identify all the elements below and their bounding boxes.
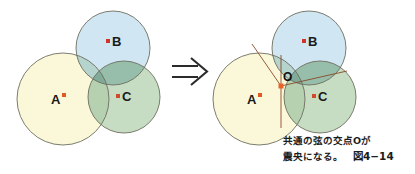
epicenter-dot-o — [279, 84, 284, 89]
left-label-c: C — [122, 89, 132, 104]
figure-container: A B C — [0, 0, 415, 174]
left-station-dot-c — [116, 94, 120, 98]
right-station-dot-b — [302, 39, 306, 43]
left-station-dot-a — [62, 93, 66, 97]
right-station-dot-c — [312, 94, 316, 98]
right-label-c: C — [318, 89, 328, 104]
right-station-dot-a — [258, 93, 262, 97]
caption-line-1: 共通の弦の交点Oが — [283, 135, 371, 146]
left-label-a: A — [51, 92, 61, 107]
right-label-a: A — [247, 92, 257, 107]
caption-line-2: 震央になる。 — [282, 151, 343, 162]
figure-number: 図4−14 — [353, 150, 394, 162]
epicenter-label-o: O — [283, 70, 292, 84]
left-station-dot-b — [106, 39, 110, 43]
left-label-b: B — [112, 34, 121, 49]
right-label-b: B — [308, 34, 317, 49]
earthquake-epicenter-figure: A B C — [0, 0, 415, 174]
